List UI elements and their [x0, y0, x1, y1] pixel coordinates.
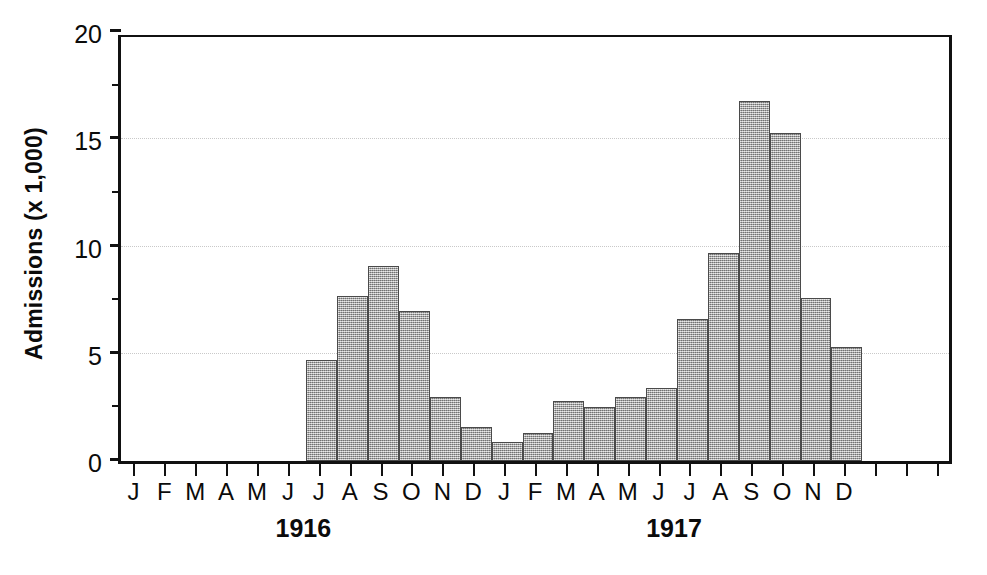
x-tick-label: J [674, 479, 705, 504]
x-tick-label: S [736, 479, 767, 504]
x-tick [720, 464, 722, 476]
x-tick-label: J [272, 479, 303, 504]
x-tick [288, 464, 290, 476]
bar [677, 319, 708, 461]
y-tick-major [110, 458, 121, 461]
y-tick-label: 5 [56, 344, 102, 369]
bar [553, 401, 584, 461]
x-tick [628, 464, 630, 476]
x-tick [566, 464, 568, 476]
y-tick-minor [112, 84, 121, 86]
bar [399, 311, 430, 461]
x-axis-ticks [118, 464, 952, 476]
x-tick [782, 464, 784, 476]
x-tick [937, 464, 939, 476]
y-tick-major [110, 244, 121, 247]
y-tick-major [110, 29, 121, 32]
y-tick-label: 10 [56, 237, 102, 262]
x-tick [535, 464, 537, 476]
y-tick-minor [112, 405, 121, 407]
x-tick-label: F [149, 479, 180, 504]
plot-area [118, 35, 952, 464]
bar [306, 360, 337, 461]
x-tick [257, 464, 259, 476]
y-tick-major [110, 136, 121, 139]
bar [770, 133, 801, 461]
y-tick-minor [112, 298, 121, 300]
y-axis-tick-labels: 05101520 [56, 35, 102, 464]
x-tick-label: S [365, 479, 396, 504]
y-axis-title-container: Admissions (x 1,000) [0, 0, 64, 500]
x-tick [844, 464, 846, 476]
y-tick-label: 0 [56, 451, 102, 476]
x-tick [504, 464, 506, 476]
x-tick [381, 464, 383, 476]
bar [739, 101, 770, 461]
bar [831, 347, 862, 461]
x-tick [473, 464, 475, 476]
x-tick [226, 464, 228, 476]
x-tick [164, 464, 166, 476]
bar [615, 397, 646, 461]
x-tick-label: A [705, 479, 736, 504]
x-tick-label: M [242, 479, 273, 504]
x-tick-label: D [458, 479, 489, 504]
x-tick-label: A [334, 479, 365, 504]
x-tick-label: O [767, 479, 798, 504]
bar [337, 296, 368, 461]
x-tick [350, 464, 352, 476]
x-tick [751, 464, 753, 476]
y-tick-label: 20 [56, 22, 102, 47]
chart-figure: Admissions (x 1,000) 05101520 JFMAMJJASO… [0, 0, 987, 575]
bar [368, 266, 399, 461]
bar [801, 298, 832, 461]
x-tick-label: J [643, 479, 674, 504]
x-tick [133, 464, 135, 476]
x-tick-label: J [118, 479, 149, 504]
x-tick [195, 464, 197, 476]
x-tick [659, 464, 661, 476]
bar [708, 253, 739, 461]
bar [461, 427, 492, 461]
x-tick-label: F [520, 479, 551, 504]
x-tick-label: M [550, 479, 581, 504]
x-tick [319, 464, 321, 476]
x-tick-label: M [180, 479, 211, 504]
x-group-label: 1917 [489, 515, 860, 541]
x-tick [875, 464, 877, 476]
y-tick-minor [112, 191, 121, 193]
x-tick-label: A [581, 479, 612, 504]
x-tick-label: O [396, 479, 427, 504]
x-axis-group-labels: 19161917 [118, 515, 952, 551]
bar-series [121, 37, 949, 461]
x-tick [906, 464, 908, 476]
x-tick [597, 464, 599, 476]
bar [523, 433, 554, 461]
x-tick-label: N [798, 479, 829, 504]
x-tick-label: M [612, 479, 643, 504]
y-tick-major [110, 351, 121, 354]
x-tick-label: J [489, 479, 520, 504]
x-tick [689, 464, 691, 476]
x-group-label: 1916 [118, 515, 489, 541]
bar [584, 407, 615, 461]
x-tick [813, 464, 815, 476]
x-tick-label: N [427, 479, 458, 504]
x-tick [442, 464, 444, 476]
bar [646, 388, 677, 461]
x-tick-label: D [828, 479, 859, 504]
bar [492, 442, 523, 461]
x-tick-label: A [211, 479, 242, 504]
y-axis-title: Admissions (x 1,000) [21, 14, 48, 474]
y-tick-label: 15 [56, 129, 102, 154]
x-tick-label: J [303, 479, 334, 504]
bar [430, 397, 461, 461]
x-axis-tick-labels: JFMAMJJASONDJFMAMJJASOND [118, 479, 952, 511]
x-tick [411, 464, 413, 476]
